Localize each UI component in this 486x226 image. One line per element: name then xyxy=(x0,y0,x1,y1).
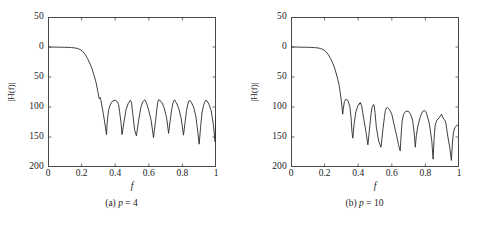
x-tick-label: 0.2 xyxy=(76,169,88,179)
caption-variable: p xyxy=(359,198,364,208)
y-tick-label: 0 xyxy=(39,42,44,52)
panel-a: 50 0 50 100 150 200 |H(f)| xyxy=(0,0,243,226)
panel-a-plot-area xyxy=(48,17,216,167)
y-tick-label: 50 xyxy=(34,72,44,82)
x-tick-label: 0.4 xyxy=(352,169,364,179)
x-tick-label: 0.2 xyxy=(319,169,331,179)
panel-b-x-axis-title: f xyxy=(291,181,459,191)
panel-a-y-axis-title: |H(f)| xyxy=(6,17,18,167)
caption-variable: p xyxy=(118,198,123,208)
y-tick-label: 50 xyxy=(34,12,44,22)
panel-b: 50 0 50 100 150 200 |H(f)| xyxy=(243,0,486,226)
panel-a-x-axis-title: f xyxy=(48,181,216,191)
y-tick-label: 150 xyxy=(29,132,44,142)
figure-container: 50 0 50 100 150 200 |H(f)| xyxy=(0,0,486,226)
y-tick-label: 200 xyxy=(29,162,44,172)
x-tick-label: 0.6 xyxy=(386,169,398,179)
y-tick-label: 50 xyxy=(277,12,287,22)
x-tick-label: 1 xyxy=(214,169,219,179)
x-tick-label: 0 xyxy=(289,169,294,179)
panel-b-plot-area xyxy=(291,17,459,167)
x-tick-label: 0.4 xyxy=(109,169,121,179)
caption-equals: = xyxy=(125,198,130,208)
x-tick-label: 0.8 xyxy=(176,169,188,179)
panel-a-curve xyxy=(48,17,216,167)
panel-b-y-axis-title: |H(f)| xyxy=(249,17,261,167)
y-tick-label: 200 xyxy=(272,162,287,172)
y-tick-label: 50 xyxy=(277,72,287,82)
x-tick-label: 1 xyxy=(457,169,462,179)
y-tick-label: 100 xyxy=(29,102,44,112)
caption-value: 4 xyxy=(133,198,138,208)
y-tick-label: 0 xyxy=(282,42,287,52)
y-tick-label: 150 xyxy=(272,132,287,142)
caption-value: 10 xyxy=(374,198,384,208)
y-tick-label: 100 xyxy=(272,102,287,112)
x-tick-label: 0.6 xyxy=(143,169,155,179)
caption-equals: = xyxy=(366,198,371,208)
caption-prefix: (b) xyxy=(346,198,357,208)
panel-a-caption: (a) p = 4 xyxy=(0,198,243,208)
caption-prefix: (a) xyxy=(105,198,116,208)
x-tick-label: 0 xyxy=(46,169,51,179)
x-tick-label: 0.8 xyxy=(419,169,431,179)
panel-b-caption: (b) p = 10 xyxy=(243,198,486,208)
panel-b-curve xyxy=(291,17,459,167)
